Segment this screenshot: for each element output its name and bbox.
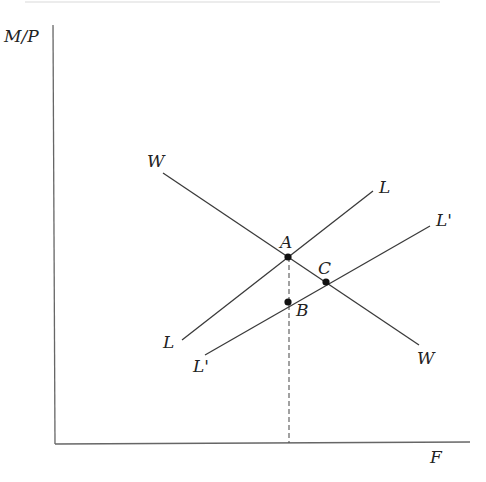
l-prime-label-lower: L': [192, 356, 209, 376]
l-label-upper: L: [378, 177, 390, 197]
l-prime-label-upper: L': [435, 210, 452, 230]
point-a: [284, 253, 291, 260]
labor-market-diagram: M/P F W W L L L' L' A B C: [0, 0, 486, 482]
point-b-label: B: [295, 300, 309, 320]
l-line: [182, 191, 373, 340]
x-axis: [55, 442, 470, 444]
w-label-lower: W: [417, 348, 436, 368]
point-b: [284, 298, 291, 305]
y-axis-label: M/P: [3, 26, 39, 46]
point-c: [322, 278, 329, 285]
point-a-label: A: [278, 232, 292, 252]
x-axis-label: F: [429, 447, 443, 467]
l-prime-line: [205, 226, 430, 355]
l-label-lower: L: [162, 332, 174, 352]
y-axis: [53, 25, 55, 444]
w-line: [163, 173, 419, 345]
w-label-upper: W: [147, 151, 166, 171]
point-c-label: C: [318, 258, 331, 278]
